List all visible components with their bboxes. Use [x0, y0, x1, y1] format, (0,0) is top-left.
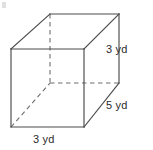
hidden-edge-bottom-left-diagonal — [11, 83, 50, 127]
prism-figure: 3 yd 5 yd 3 yd — [0, 0, 153, 150]
depth-dimension-label: 5 yd — [106, 99, 128, 111]
height-dimension-label: 3 yd — [106, 43, 128, 55]
edge-diagonal-top-left — [11, 14, 50, 49]
rectangular-prism-drawing — [0, 0, 153, 150]
width-dimension-label: 3 yd — [33, 133, 55, 145]
visible-edges-group — [11, 14, 119, 127]
